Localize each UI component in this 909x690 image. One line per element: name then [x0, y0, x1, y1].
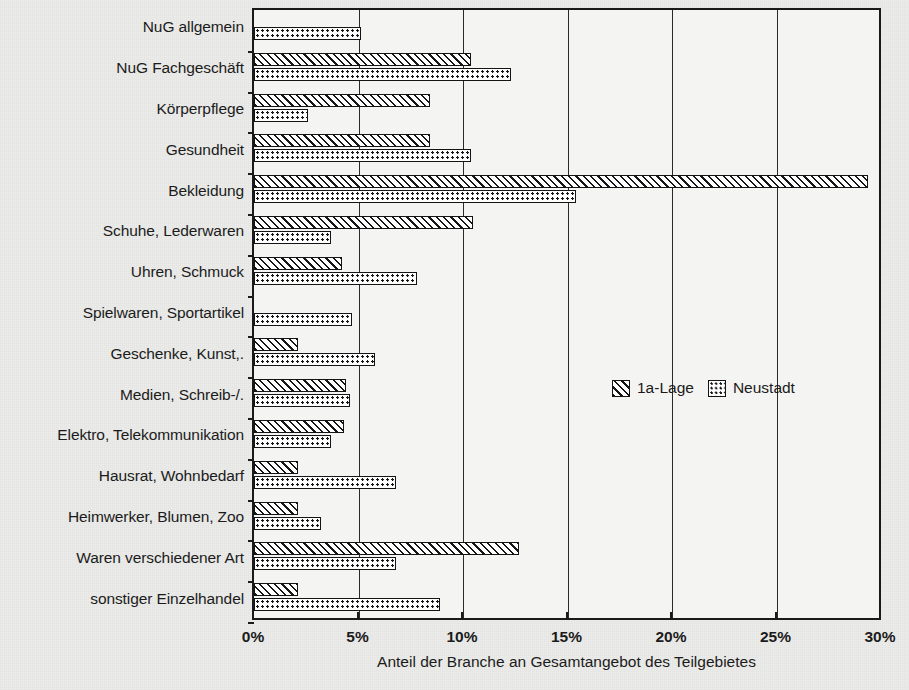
category-tick — [248, 132, 254, 134]
x-axis-label: 10% — [446, 628, 477, 646]
category-label: Hausrat, Wohnbedarf — [0, 467, 244, 485]
bar-1a-lage — [254, 53, 471, 66]
bar-1a-lage — [254, 257, 342, 270]
bar-1a-lage — [254, 379, 346, 392]
category-tick — [248, 173, 254, 175]
bar-neustadt — [254, 353, 375, 366]
bar-neustadt — [254, 231, 331, 244]
bar-neustadt — [254, 435, 331, 448]
bar-row — [254, 418, 879, 459]
bar-row — [254, 255, 879, 296]
legend-item-neustadt: Neustadt — [708, 379, 795, 397]
category-label: Körperpflege — [0, 100, 244, 118]
category-label: NuG allgemein — [0, 18, 244, 36]
bar-row — [254, 296, 879, 337]
x-tick-25% — [775, 612, 777, 619]
category-tick — [248, 500, 254, 502]
bar-1a-lage — [254, 94, 430, 107]
bar-neustadt — [254, 517, 321, 530]
category-label: Spielwaren, Sportartikel — [0, 304, 244, 322]
legend-item-1a-lage: 1a-Lage — [612, 379, 694, 397]
category-label: sonstiger Einzelhandel — [0, 590, 244, 608]
legend-label-1a-lage: 1a-Lage — [637, 379, 694, 397]
category-label: NuG Fachgeschäft — [0, 59, 244, 77]
bar-row — [254, 173, 879, 214]
bar-1a-lage — [254, 175, 868, 188]
bar-rows — [254, 10, 879, 618]
bar-1a-lage — [254, 420, 344, 433]
category-tick — [248, 214, 254, 216]
x-axis-title: Anteil der Branche an Gesamtangebot des … — [252, 653, 881, 671]
bar-neustadt — [254, 557, 396, 570]
bar-neustadt — [254, 598, 440, 611]
category-tick — [248, 622, 254, 624]
legend-swatch-hatch-icon — [612, 380, 630, 397]
chart-legend: 1a-Lage Neustadt — [612, 379, 795, 397]
bar-1a-lage — [254, 461, 298, 474]
category-label: Waren verschiedener Art — [0, 549, 244, 567]
category-label: Medien, Schreib-/. — [0, 386, 244, 404]
bar-row — [254, 51, 879, 92]
category-tick — [248, 581, 254, 583]
bar-row — [254, 214, 879, 255]
bar-row — [254, 500, 879, 541]
x-tick-20% — [670, 612, 672, 619]
bar-1a-lage — [254, 583, 298, 596]
category-tick — [248, 51, 254, 53]
category-label: Gesundheit — [0, 141, 244, 159]
horizontal-bar-chart: NuG allgemeinNuG FachgeschäftKörperpfleg… — [0, 0, 909, 690]
category-tick — [248, 255, 254, 257]
category-label: Uhren, Schmuck — [0, 263, 244, 281]
x-axis-label: 20% — [655, 628, 686, 646]
bar-neustadt — [254, 109, 308, 122]
bar-1a-lage — [254, 134, 430, 147]
category-tick — [248, 459, 254, 461]
bar-1a-lage — [254, 542, 519, 555]
x-axis-label: 15% — [551, 628, 582, 646]
category-tick — [248, 296, 254, 298]
bar-row — [254, 540, 879, 581]
legend-label-neustadt: Neustadt — [733, 379, 795, 397]
bar-1a-lage — [254, 338, 298, 351]
legend-swatch-dotted-icon — [708, 380, 726, 397]
bar-neustadt — [254, 27, 361, 40]
bar-neustadt — [254, 394, 350, 407]
x-tick-5% — [357, 612, 359, 619]
bar-row — [254, 132, 879, 173]
x-axis-label: 30% — [864, 628, 895, 646]
x-axis-label: 5% — [346, 628, 368, 646]
category-tick — [248, 418, 254, 420]
category-label: Schuhe, Lederwaren — [0, 222, 244, 240]
x-tick-10% — [461, 612, 463, 619]
category-label: Geschenke, Kunst,. — [0, 345, 244, 363]
bar-neustadt — [254, 313, 352, 326]
bar-neustadt — [254, 190, 576, 203]
x-axis-label: 25% — [760, 628, 791, 646]
bar-neustadt — [254, 272, 417, 285]
category-tick — [248, 540, 254, 542]
bar-row — [254, 10, 879, 51]
category-label: Bekleidung — [0, 182, 244, 200]
category-tick — [248, 377, 254, 379]
category-label: Heimwerker, Blumen, Zoo — [0, 508, 244, 526]
x-tick-15% — [566, 612, 568, 619]
bar-1a-lage — [254, 216, 473, 229]
bar-neustadt — [254, 68, 511, 81]
category-tick — [248, 336, 254, 338]
bar-row — [254, 459, 879, 500]
bar-row — [254, 336, 879, 377]
category-label: Elektro, Telekommunikation — [0, 426, 244, 444]
bar-row — [254, 92, 879, 133]
bar-1a-lage — [254, 502, 298, 515]
x-tick-0% — [252, 612, 254, 619]
x-tick-30% — [879, 612, 881, 619]
bar-neustadt — [254, 476, 396, 489]
category-tick — [248, 92, 254, 94]
plot-area — [252, 8, 881, 620]
bar-neustadt — [254, 149, 471, 162]
x-axis-label: 0% — [242, 628, 264, 646]
